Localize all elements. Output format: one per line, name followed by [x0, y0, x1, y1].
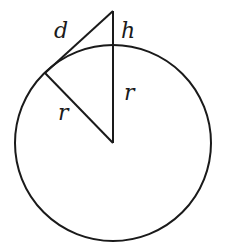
label-h: h [121, 18, 135, 43]
label-r-slanted: r [58, 100, 70, 125]
label-r-vertical: r [124, 80, 136, 105]
label-d: d [54, 18, 68, 43]
radius-to-tangent-point [45, 73, 113, 143]
diagram-canvas: d h r r [0, 0, 228, 250]
geometry-figure: d h r r [0, 0, 228, 250]
